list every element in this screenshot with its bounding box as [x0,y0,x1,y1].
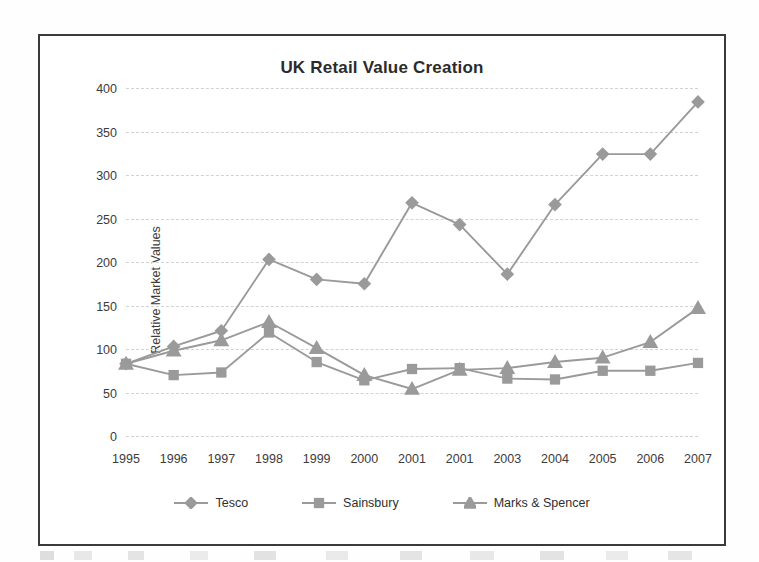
data-point-marker [309,340,325,354]
y-axis-tick-label: 0 [110,430,117,444]
x-axis-tick-label: 2006 [636,452,664,466]
data-point-marker [405,196,419,210]
legend-label: Marks & Spencer [494,496,590,510]
legend-item-sainsbury[interactable]: Sainsbury [302,496,399,510]
y-axis-tick-label: 200 [96,256,117,270]
x-axis-tick-label: 2007 [684,452,712,466]
y-axis-tick-label: 300 [96,169,117,183]
x-axis-tick-label: 2003 [493,452,521,466]
data-point-marker [169,370,179,380]
data-point-marker [502,373,512,383]
x-axis-tick-label: 2004 [541,452,569,466]
diamond-icon [174,496,208,510]
series-layer [126,88,698,436]
y-axis-tick-label: 100 [96,343,117,357]
legend-label: Sainsbury [343,496,399,510]
legend-item-marks-spencer[interactable]: Marks & Spencer [453,496,590,510]
legend-item-tesco[interactable]: Tesco [174,496,248,510]
legend-label: Tesco [215,496,248,510]
data-point-marker [690,300,706,314]
data-point-marker [261,314,277,328]
data-point-marker [356,367,372,381]
data-point-marker [264,327,274,337]
data-point-marker [314,498,324,508]
y-axis-tick-label: 400 [96,82,117,96]
y-axis-tick-label: 350 [96,126,117,140]
chart-title: UK Retail Value Creation [40,58,724,78]
data-point-marker [464,497,476,509]
x-axis-tick-label: 2000 [350,452,378,466]
series-line [126,102,698,364]
y-axis-tick-label: 250 [96,213,117,227]
grid-line: 0 [126,436,698,437]
chart-page: UK Retail Value Creation Relative Market… [0,0,759,562]
data-point-marker [407,364,417,374]
series-marks-spencer [118,300,706,395]
chart-frame: UK Retail Value Creation Relative Market… [38,34,726,546]
x-axis-tick-label: 1996 [160,452,188,466]
x-axis-tick-label: 2005 [589,452,617,466]
x-axis-tick-label: 2001 [398,452,426,466]
data-point-marker [550,374,560,384]
chart-legend: TescoSainsburyMarks & Spencer [40,496,724,510]
data-point-marker [312,357,322,367]
x-axis-tick-label: 1997 [207,452,235,466]
plot-area: 050100150200250300350400 199519961997199… [126,88,698,436]
data-point-marker [216,367,226,377]
data-point-marker [185,497,197,509]
scan-artifact [40,551,730,560]
data-point-marker [310,273,324,287]
triangle-icon [453,496,487,510]
x-axis-tick-label: 1995 [112,452,140,466]
series-line [126,308,698,389]
data-point-marker [262,253,276,267]
square-icon [302,496,336,510]
data-point-marker [358,277,372,291]
x-axis-tick-label: 1999 [303,452,331,466]
y-axis-tick-label: 150 [96,300,117,314]
data-point-marker [693,358,703,368]
data-point-marker [642,334,658,348]
data-point-marker [645,366,655,376]
data-point-marker [598,366,608,376]
x-axis-tick-label: 1998 [255,452,283,466]
y-axis-tick-label: 50 [103,387,117,401]
series-tesco [119,95,705,371]
x-axis-tick-label: 2001 [446,452,474,466]
